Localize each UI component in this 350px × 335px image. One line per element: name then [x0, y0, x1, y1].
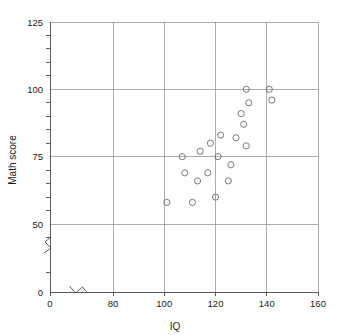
data-point-11 [225, 178, 231, 184]
scatter-plot-figure: 080100120140160 05075100125 IQ Math scor… [0, 0, 350, 335]
data-point-6 [205, 170, 211, 176]
data-point-15 [241, 121, 247, 127]
x-tick-label-120: 120 [208, 298, 224, 309]
x-tick-label-100: 100 [156, 298, 172, 309]
x-tick-label-140: 140 [259, 298, 275, 309]
x-tick-label-160: 160 [310, 298, 326, 309]
data-point-4 [194, 178, 200, 184]
axis-break-marks-group [44, 237, 88, 293]
data-point-3 [189, 199, 195, 205]
data-point-7 [207, 140, 213, 146]
x-tick-label-0: 0 [47, 298, 52, 309]
data-point-12 [228, 162, 234, 168]
data-point-0 [164, 199, 170, 205]
y-minor-tickmarks-group [46, 35, 50, 272]
data-point-16 [243, 143, 249, 149]
x-tickmarks-group [50, 292, 318, 296]
data-point-5 [197, 148, 203, 154]
x-tick-labels-group: 080100120140160 [47, 298, 326, 309]
y-axis-title: Math score [7, 135, 18, 185]
y-tick-label-0: 0 [38, 287, 43, 298]
plot-svg: 080100120140160 05075100125 IQ Math scor… [0, 0, 350, 335]
y-gridlines-group [50, 22, 318, 224]
x-axis-title: IQ [170, 321, 181, 332]
y-tick-label-125: 125 [27, 17, 43, 28]
y-tick-label-75: 75 [32, 151, 43, 162]
x-tick-label-80: 80 [108, 298, 119, 309]
y-tick-label-100: 100 [27, 84, 43, 95]
data-point-14 [238, 110, 244, 116]
data-point-18 [246, 100, 252, 106]
y-tick-label-50: 50 [32, 219, 43, 230]
data-point-2 [182, 170, 188, 176]
y-tick-labels-group: 05075100125 [27, 17, 43, 298]
data-point-20 [269, 97, 275, 103]
data-points-group [164, 86, 275, 205]
data-point-13 [233, 135, 239, 141]
data-point-10 [218, 132, 224, 138]
